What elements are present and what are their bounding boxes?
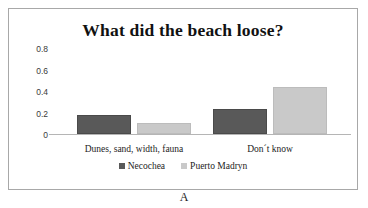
legend-swatch-icon	[181, 163, 187, 169]
x-axis-line	[49, 134, 351, 135]
y-axis-tick: 0.4	[36, 87, 48, 97]
legend-item-necochea: Necochea	[119, 161, 165, 171]
plot-area: 0.8 0.6 0.4 0.2 0 Dunes, sand, width, fa…	[53, 49, 351, 135]
legend-label: Necochea	[128, 161, 165, 171]
y-axis-tick: 0.2	[36, 109, 48, 119]
figure-caption: A	[0, 190, 368, 205]
chart-legend: Necochea Puerto Madryn	[9, 161, 357, 171]
bar-puertomadryn-dunes	[137, 123, 191, 134]
figure-panel-a: What did the beach loose? 0.8 0.6 0.4 0.…	[0, 0, 368, 208]
legend-swatch-icon	[119, 163, 125, 169]
y-axis-tick: 0.6	[36, 66, 48, 76]
chart-title: What did the beach loose?	[9, 20, 357, 41]
legend-item-puerto-madryn: Puerto Madryn	[181, 161, 247, 171]
x-axis-category-label: Don´t know	[247, 144, 293, 154]
chart-frame: What did the beach loose? 0.8 0.6 0.4 0.…	[8, 8, 358, 190]
legend-label: Puerto Madryn	[190, 161, 247, 171]
y-axis-tick: 0.8	[36, 44, 48, 54]
bar-necochea-dunes	[77, 115, 131, 134]
x-axis-category-label: Dunes, sand, width, fauna	[85, 144, 184, 154]
bar-puertomadryn-dontknow	[273, 87, 327, 134]
y-axis-tick: 0	[43, 130, 48, 140]
bar-necochea-dontknow	[213, 109, 267, 134]
